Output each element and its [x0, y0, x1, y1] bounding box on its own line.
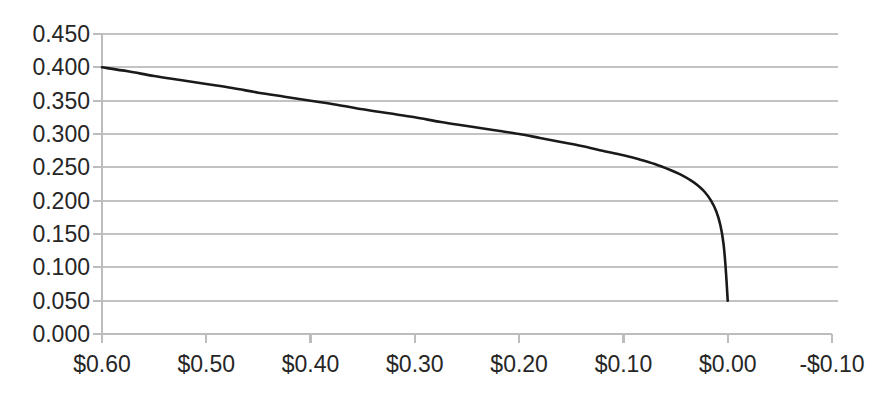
y-axis-tick-label: 0.250 [32, 154, 90, 180]
y-axis-tick-label: 0.300 [32, 121, 90, 147]
chart-container: 0.4500.4000.3500.3000.2500.2000.1500.100… [0, 0, 885, 399]
y-axis-tick-label: 0.150 [32, 221, 90, 247]
y-axis-tick-label: 0.350 [32, 88, 90, 114]
x-axis-tick-label: $0.10 [595, 351, 653, 377]
x-axis-tick-label: $0.50 [178, 351, 236, 377]
y-axis-tick-label: 0.450 [32, 21, 90, 47]
line-chart: 0.4500.4000.3500.3000.2500.2000.1500.100… [0, 0, 885, 399]
y-axis-tick-label: 0.000 [32, 321, 90, 347]
y-axis-tick-label: 0.100 [32, 254, 90, 280]
x-axis-tick-label: $0.60 [73, 351, 131, 377]
y-axis-tick-label: 0.050 [32, 288, 90, 314]
x-axis-tick-label: $0.40 [282, 351, 340, 377]
x-axis-tick-label: $0.00 [699, 351, 757, 377]
chart-background [0, 0, 885, 399]
x-axis-tick-label: $0.30 [386, 351, 444, 377]
y-axis-tick-label: 0.400 [32, 54, 90, 80]
x-axis-tick-label: -$0.10 [799, 351, 864, 377]
y-axis-tick-label: 0.200 [32, 188, 90, 214]
x-axis-tick-label: $0.20 [490, 351, 548, 377]
